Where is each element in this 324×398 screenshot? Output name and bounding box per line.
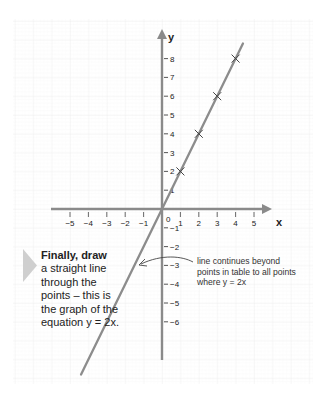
note-body: a straight line through the points – thi… — [41, 262, 119, 328]
y-tick-label: 2 — [170, 167, 175, 176]
x-tick-label: −3 — [102, 219, 112, 228]
instruction-note: Finally, draw a straight line through th… — [41, 249, 121, 329]
note-heading: Finally, draw — [41, 249, 121, 262]
y-tick-label: 5 — [170, 111, 175, 120]
x-tick-label: −5 — [65, 219, 75, 228]
bullet-triangle-icon — [22, 249, 38, 283]
x-tick-label: 5 — [252, 219, 257, 228]
x-tick-label: 2 — [197, 219, 202, 228]
graph-figure: xy0−5−4−3−2−11234512345678−1−2−3−4−5−6 F… — [0, 0, 324, 398]
x-tick-label: −2 — [121, 219, 131, 228]
y-tick-label: 4 — [170, 130, 175, 139]
y-axis-label: y — [168, 31, 175, 43]
y-tick-label: −3 — [170, 261, 180, 270]
y-tick-label: 6 — [170, 92, 175, 101]
y-tick-label: −5 — [170, 299, 180, 308]
origin-label: 0 — [166, 215, 171, 224]
y-tick-label: −4 — [170, 280, 180, 289]
callout-annotation: line continues beyond points in table to… — [197, 256, 297, 288]
x-axis-label: x — [276, 216, 283, 228]
y-tick-label: 8 — [170, 55, 175, 64]
x-tick-label: −4 — [84, 219, 94, 228]
x-tick-label: 3 — [215, 219, 220, 228]
coordinate-plane: xy0−5−4−3−2−11234512345678−1−2−3−4−5−6 — [0, 0, 324, 398]
y-tick-label: −2 — [170, 243, 180, 252]
y-tick-label: −1 — [170, 224, 180, 233]
y-tick-label: 7 — [170, 73, 175, 82]
x-tick-label: 4 — [233, 219, 238, 228]
y-tick-label: −6 — [170, 318, 180, 327]
y-tick-label: 3 — [170, 149, 175, 158]
x-tick-label: −1 — [139, 219, 149, 228]
